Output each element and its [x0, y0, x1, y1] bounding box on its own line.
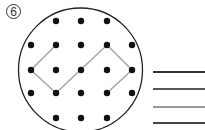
peg-dot: [78, 90, 84, 96]
answer-line: [153, 106, 205, 108]
peg-dot: [104, 42, 110, 48]
peg-dot: [78, 67, 84, 73]
peg-dot: [78, 42, 84, 48]
peg-dot: [104, 90, 110, 96]
peg-dot: [104, 18, 110, 24]
peg-dot: [53, 90, 59, 96]
answer-line: [153, 88, 205, 90]
peg-dots: [28, 18, 135, 121]
peg-dot: [78, 18, 84, 24]
geoboard: [0, 0, 205, 130]
peg-dot: [28, 90, 34, 96]
peg-dot: [129, 90, 135, 96]
peg-dot: [28, 42, 34, 48]
peg-dot: [53, 18, 59, 24]
peg-dot: [53, 67, 59, 73]
peg-dot: [78, 115, 84, 121]
peg-dot: [129, 42, 135, 48]
peg-dot: [104, 115, 110, 121]
peg-dot: [28, 67, 34, 73]
peg-dot: [104, 67, 110, 73]
peg-dot: [53, 42, 59, 48]
peg-dot: [129, 67, 135, 73]
answer-line: [153, 71, 205, 73]
peg-dot: [53, 115, 59, 121]
answer-line: [153, 122, 205, 124]
